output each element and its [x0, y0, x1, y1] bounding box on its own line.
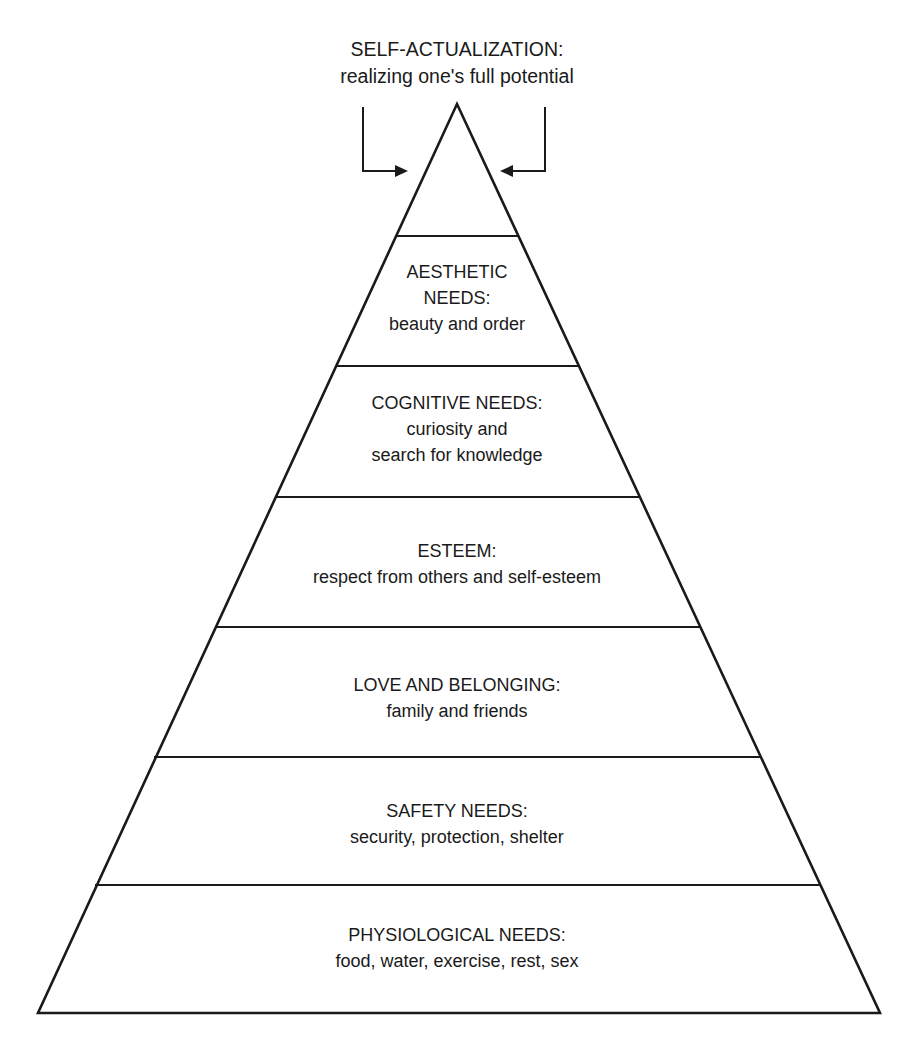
level-title: COGNITIVE NEEDS: — [371, 393, 542, 413]
level-aesthetic: AESTHETIC NEEDS: beauty and order — [389, 262, 525, 334]
left-arrow-icon — [363, 107, 408, 177]
level-love-belonging: LOVE AND BELONGING: family and friends — [353, 675, 560, 721]
level-title: ESTEEM: — [417, 541, 496, 561]
level-physiological: PHYSIOLOGICAL NEEDS: food, water, exerci… — [335, 925, 578, 971]
apex-description: realizing one's full potential — [340, 65, 574, 87]
apex-title: SELF-ACTUALIZATION: — [350, 38, 563, 60]
level-title: PHYSIOLOGICAL NEEDS: — [348, 925, 565, 945]
level-cognitive: COGNITIVE NEEDS: curiosity and search fo… — [371, 393, 542, 465]
right-arrow-icon — [500, 107, 545, 177]
level-title: NEEDS: — [423, 288, 490, 308]
level-esteem: ESTEEM: respect from others and self-est… — [313, 541, 601, 587]
level-description: food, water, exercise, rest, sex — [335, 951, 578, 971]
level-title: LOVE AND BELONGING: — [353, 675, 560, 695]
level-description: security, protection, shelter — [350, 827, 564, 847]
level-safety: SAFETY NEEDS: security, protection, shel… — [350, 801, 564, 847]
maslow-pyramid-diagram: SELF-ACTUALIZATION: realizing one's full… — [0, 0, 914, 1062]
level-title: AESTHETIC — [406, 262, 507, 282]
level-title: SAFETY NEEDS: — [386, 801, 528, 821]
level-description: respect from others and self-esteem — [313, 567, 601, 587]
level-description: beauty and order — [389, 314, 525, 334]
level-description: family and friends — [386, 701, 527, 721]
apex-label: SELF-ACTUALIZATION: realizing one's full… — [340, 38, 574, 87]
level-description: search for knowledge — [371, 445, 542, 465]
level-description: curiosity and — [406, 419, 507, 439]
